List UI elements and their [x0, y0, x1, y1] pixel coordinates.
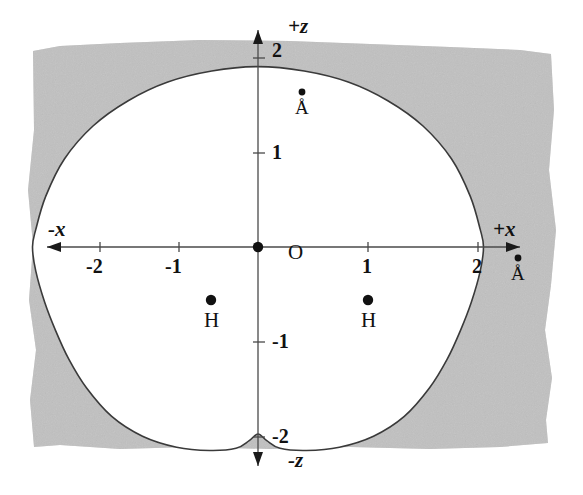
- x-axis-positive-label: +x: [493, 219, 515, 240]
- atom-label-hydrogen-right: H: [361, 310, 376, 331]
- z-axis-negative-arrowhead: [253, 452, 263, 466]
- angstrom-unit-label-z-axis: Å: [295, 98, 309, 117]
- z-tick-label-2: 2: [272, 40, 282, 60]
- x-axis-negative-label: -x: [48, 219, 66, 240]
- angstrom-dot-z-axis: [299, 89, 306, 96]
- atom-marker-hydrogen-left: [206, 295, 216, 305]
- z-tick-label-1: 1: [272, 142, 282, 162]
- z-axis-negative-label: -z: [288, 450, 303, 471]
- z-tick-label--1: -1: [272, 331, 289, 351]
- atom-marker-oxygen: [253, 242, 263, 252]
- atom-marker-hydrogen-right: [363, 295, 373, 305]
- x-tick-label--2: -2: [86, 256, 103, 276]
- angstrom-dot-x-axis: [515, 255, 522, 262]
- x-tick-label-1: 1: [362, 256, 372, 276]
- angstrom-unit-label-x-axis: Å: [511, 264, 525, 283]
- electron-density-contour-figure: +x -x +z -z -2 -1 1 2 2 1 -1 -2 O H H Å …: [0, 0, 583, 495]
- z-axis-positive-label: +z: [288, 16, 308, 37]
- z-axis-positive-arrowhead: [253, 30, 263, 44]
- z-tick-label--2: -2: [272, 426, 289, 446]
- x-tick-label--1: -1: [165, 256, 182, 276]
- atom-label-oxygen: O: [288, 242, 303, 263]
- atom-label-hydrogen-left: H: [204, 310, 219, 331]
- x-tick-label-2: 2: [472, 256, 482, 276]
